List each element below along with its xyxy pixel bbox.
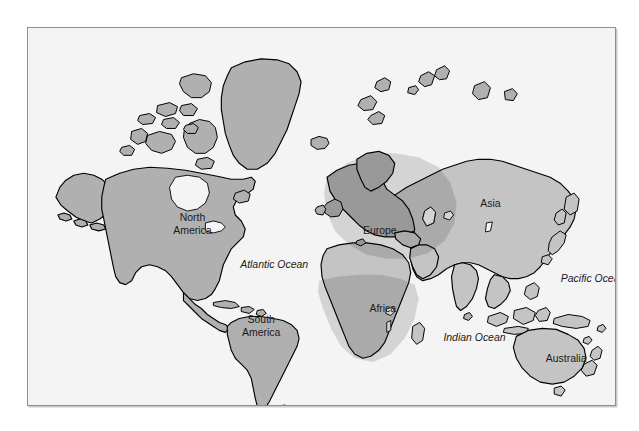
arctic-isle-f	[120, 145, 135, 155]
world-map-svg: North America South America Europe Afric…	[28, 28, 615, 405]
label-australia: Australia	[546, 353, 587, 364]
new-zealand-north	[590, 346, 602, 360]
map-frame: North America South America Europe Afric…	[27, 27, 616, 406]
sub-saharan-africa-shading	[318, 275, 419, 363]
arctic-isle-c	[138, 114, 156, 125]
label-south-america: South	[248, 314, 275, 325]
sulawesi	[535, 308, 550, 322]
label-pacific-ocean: Pacific Ocean	[561, 273, 615, 284]
new-guinea	[553, 314, 590, 328]
iceland	[311, 136, 329, 149]
novaya-zemlya-b	[435, 66, 450, 80]
aleutian-islands	[58, 213, 72, 221]
arctic-isle-a	[157, 103, 178, 117]
banks-island	[131, 128, 148, 144]
label-north-america-line2: America	[173, 225, 212, 236]
label-south-america-line2: America	[242, 327, 281, 338]
hudson-island	[195, 157, 214, 169]
label-atlantic-ocean: Atlantic Ocean	[239, 260, 308, 271]
philippines	[524, 283, 539, 300]
sri-lanka	[464, 312, 473, 320]
greenland	[221, 59, 301, 169]
arctic-isle-d	[162, 118, 180, 129]
landmasses	[56, 59, 606, 405]
borneo	[513, 308, 535, 325]
arctic-isle-b	[179, 104, 197, 116]
victoria-island	[146, 131, 176, 153]
pacific-isle-a	[583, 336, 592, 344]
madagascar	[412, 322, 425, 344]
india-subcontinent	[452, 263, 479, 311]
southeast-asia	[485, 275, 510, 309]
tasmania	[554, 386, 565, 396]
pacific-isle-b	[597, 324, 606, 332]
label-europe: Europe	[363, 225, 397, 236]
franz-josef-land	[408, 86, 419, 95]
novaya-zemlya-a	[419, 72, 435, 87]
arctic-isle-h	[368, 112, 385, 125]
cuba	[213, 301, 239, 309]
severnaya-zemlya	[472, 82, 490, 100]
sumatra	[487, 312, 508, 326]
hispaniola	[241, 307, 254, 314]
map-figure: North America South America Europe Afric…	[0, 0, 639, 431]
ellesmere-island	[179, 74, 211, 98]
label-north-america: North	[180, 212, 206, 223]
label-asia: Asia	[480, 198, 501, 209]
label-indian-ocean: Indian Ocean	[443, 332, 505, 343]
label-africa: Africa	[369, 303, 396, 314]
ireland	[315, 205, 326, 215]
svalbard	[375, 78, 391, 92]
aleutian-chain-c	[90, 223, 106, 231]
japan-south	[541, 255, 552, 265]
europe-west-asia-shading	[324, 153, 457, 258]
new-siberian-islands	[504, 89, 517, 101]
arctic-isle-g	[358, 96, 377, 111]
